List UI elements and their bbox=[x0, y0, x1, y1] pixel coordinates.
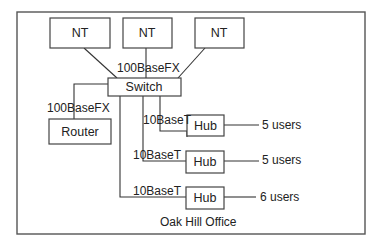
hub-2-label: Hub bbox=[194, 155, 217, 169]
nt-server-2-label: NT bbox=[139, 26, 156, 40]
link-label-switch-hub3: 10BaseT bbox=[133, 184, 182, 198]
users-label-hub1: 5 users bbox=[262, 118, 301, 132]
hub-node-3[interactable]: Hub bbox=[186, 187, 224, 209]
nt-server-3-label: NT bbox=[211, 26, 228, 40]
hub-node-2[interactable]: Hub bbox=[186, 151, 224, 173]
hub-node-1[interactable]: Hub bbox=[187, 115, 224, 136]
switch-label: Switch bbox=[126, 80, 163, 94]
hub-3-label: Hub bbox=[194, 191, 217, 205]
hub-1-label: Hub bbox=[194, 119, 217, 133]
link-label-nt-switch: 100BaseFX bbox=[117, 61, 180, 75]
network-diagram: NT NT NT Switch Router Hub Hub Hub 100Ba… bbox=[0, 0, 380, 247]
office-title: Oak Hill Office bbox=[160, 215, 237, 229]
link-label-switch-hub1: 10BaseT bbox=[143, 113, 192, 127]
link-label-switch-router: 100BaseFX bbox=[47, 101, 110, 115]
switch-node[interactable]: Switch bbox=[108, 78, 181, 96]
users-label-hub3: 6 users bbox=[260, 190, 299, 204]
users-label-hub2: 5 users bbox=[262, 153, 301, 167]
nt-server-2[interactable]: NT bbox=[123, 18, 172, 48]
router-node[interactable]: Router bbox=[49, 119, 111, 144]
nt-server-1[interactable]: NT bbox=[50, 18, 110, 48]
nt-server-1-label: NT bbox=[72, 26, 89, 40]
nt-server-3[interactable]: NT bbox=[195, 18, 244, 48]
router-label: Router bbox=[61, 125, 99, 139]
link-label-switch-hub2: 10BaseT bbox=[133, 148, 182, 162]
